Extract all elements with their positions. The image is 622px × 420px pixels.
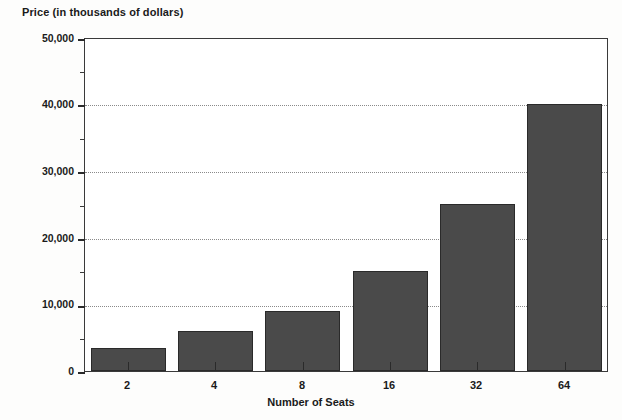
x-tick-64 — [565, 362, 566, 371]
y-tick-major-10000 — [78, 306, 85, 308]
x-tick-label-32: 32 — [456, 379, 496, 391]
y-tick-minor-25000 — [80, 206, 85, 207]
y-tick-major-20000 — [78, 239, 85, 241]
x-axis-title: Number of Seats — [0, 396, 622, 408]
bar-32[interactable] — [440, 204, 515, 371]
x-tick-label-64: 64 — [544, 379, 584, 391]
y-tick-label-20000: 20,000 — [2, 232, 74, 244]
bar-64[interactable] — [527, 104, 602, 371]
x-tick-label-2: 2 — [107, 379, 147, 391]
y-tick-major-0 — [78, 372, 85, 374]
y-tick-label-0: 0 — [2, 365, 74, 377]
y-tick-major-30000 — [78, 172, 85, 174]
x-tick-2 — [128, 362, 129, 371]
plot-area — [84, 38, 608, 372]
y-tick-minor-45000 — [80, 72, 85, 73]
chart-canvas: Price (in thousands of dollars) 50,000 4… — [0, 0, 622, 420]
y-axis-title: Price (in thousands of dollars) — [22, 6, 183, 18]
y-tick-minor-15000 — [80, 272, 85, 273]
x-tick-label-16: 16 — [369, 379, 409, 391]
y-tick-minor-35000 — [80, 139, 85, 140]
y-tick-major-50000 — [78, 39, 85, 41]
y-tick-minor-5000 — [80, 339, 85, 340]
y-tick-label-40000: 40,000 — [2, 98, 74, 110]
x-tick-4 — [215, 362, 216, 371]
x-tick-label-4: 4 — [194, 379, 234, 391]
y-tick-label-30000: 30,000 — [2, 165, 74, 177]
x-tick-32 — [477, 362, 478, 371]
y-tick-label-10000: 10,000 — [2, 298, 74, 310]
x-tick-8 — [303, 362, 304, 371]
y-tick-major-40000 — [78, 105, 85, 107]
x-tick-label-8: 8 — [282, 379, 322, 391]
bar-16[interactable] — [353, 271, 428, 371]
x-tick-16 — [390, 362, 391, 371]
y-tick-label-50000: 50,000 — [2, 32, 74, 44]
